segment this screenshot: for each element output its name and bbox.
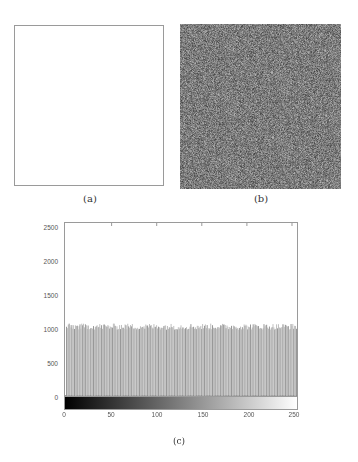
y-tick-2500: 2500 [30, 224, 58, 231]
caption-a: (a) [83, 193, 97, 204]
y-tick-1000: 1000 [30, 326, 58, 333]
caption-c: (c) [173, 436, 185, 446]
image-panel-a [14, 25, 164, 186]
x-tick-50: 50 [107, 411, 114, 418]
image-panel-b-noise [180, 24, 341, 189]
caption-b: (b) [254, 193, 268, 204]
y-tick-0: 0 [30, 394, 58, 401]
y-tick-1500: 1500 [30, 292, 58, 299]
x-tick-250: 250 [289, 411, 300, 418]
y-tick-2000: 2000 [30, 258, 58, 265]
x-tick-100: 100 [152, 411, 163, 418]
y-tick-500: 500 [30, 360, 58, 367]
x-tick-200: 200 [244, 411, 255, 418]
x-tick-0: 0 [62, 411, 66, 418]
x-tick-150: 150 [198, 411, 209, 418]
histogram-plot [64, 222, 298, 396]
grayscale-colorbar [64, 396, 298, 410]
